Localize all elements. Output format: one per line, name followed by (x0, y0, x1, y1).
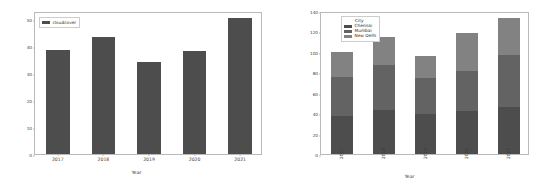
y-tick-mark (33, 102, 35, 103)
bar-segment[interactable] (415, 78, 437, 114)
bar-segment[interactable] (137, 62, 161, 154)
bar-segment[interactable] (228, 18, 252, 154)
y-tick-mark (33, 48, 35, 49)
x-tick-mark (425, 154, 426, 156)
legend-label: New Delhi (355, 34, 377, 38)
y-tick-mark (319, 135, 321, 136)
legend-entry-new-delhi[interactable]: New Delhi (344, 34, 376, 38)
x-tick-mark (240, 154, 241, 156)
bar-segment[interactable] (92, 37, 116, 154)
axes-right: 020406080100120140 20172018201920202021 … (320, 12, 529, 155)
bar[interactable] (331, 52, 353, 154)
bar[interactable] (415, 56, 437, 154)
x-tick-mark (57, 154, 58, 156)
legend-swatch-icon (344, 30, 352, 33)
chart-panel-city-stacked: 020406080100120140 20172018201920202021 … (273, 0, 546, 180)
x-tick-mark (103, 154, 104, 156)
y-tick-mark (319, 53, 321, 54)
y-tick-mark (319, 156, 321, 157)
y-tick-mark (319, 94, 321, 95)
bar-segment[interactable] (498, 18, 520, 55)
legend-swatch-icon (42, 21, 50, 24)
legend-label: cloudcover (53, 21, 77, 25)
bar-segment[interactable] (331, 77, 353, 116)
y-tick-mark (319, 13, 321, 14)
bar[interactable] (137, 62, 161, 154)
bar[interactable] (498, 18, 520, 154)
bar-segment[interactable] (183, 51, 207, 154)
y-tick-mark (33, 156, 35, 157)
legend-left[interactable]: cloudcover (39, 17, 80, 28)
bar[interactable] (46, 50, 70, 154)
bar[interactable] (228, 18, 252, 154)
chart-panel-cloudcover: 01020304050 20172018201920202021 cloudco… (0, 0, 273, 180)
x-tick-mark (149, 154, 150, 156)
x-axis-label-right: Year (405, 174, 415, 179)
x-tick-mark (467, 154, 468, 156)
bar-segment[interactable] (456, 33, 478, 71)
x-axis-label-left: Year (132, 170, 142, 175)
legend-swatch-icon (344, 35, 352, 38)
bar-segment[interactable] (331, 52, 353, 78)
y-tick-mark (319, 74, 321, 75)
legend-swatch-icon (344, 25, 352, 28)
axes-left: 01020304050 20172018201920202021 cloudco… (34, 12, 262, 155)
bar-segment[interactable] (373, 65, 395, 110)
bar-segment[interactable] (498, 55, 520, 107)
plot-area-left (35, 13, 261, 154)
y-tick-mark (33, 129, 35, 130)
bar[interactable] (92, 37, 116, 154)
legend-entries: ChennaiMumbaiNew Delhi (344, 24, 376, 38)
y-tick-mark (319, 115, 321, 116)
y-tick-mark (33, 75, 35, 76)
bar[interactable] (373, 37, 395, 154)
bar-segment[interactable] (46, 50, 70, 154)
x-tick-mark (194, 154, 195, 156)
bar-segment[interactable] (456, 71, 478, 111)
x-tick-mark (383, 154, 384, 156)
y-tick-mark (33, 21, 35, 22)
bar[interactable] (456, 33, 478, 154)
legend-right[interactable]: City ChennaiMumbaiNew Delhi (341, 16, 380, 42)
legend-entry-cloudcover[interactable]: cloudcover (42, 21, 76, 25)
bar-segment[interactable] (415, 56, 437, 78)
figure-canvas: 01020304050 20172018201920202021 cloudco… (0, 0, 546, 180)
y-tick-mark (319, 33, 321, 34)
bar[interactable] (183, 51, 207, 154)
x-tick-mark (509, 154, 510, 156)
x-tick-mark (341, 154, 342, 156)
